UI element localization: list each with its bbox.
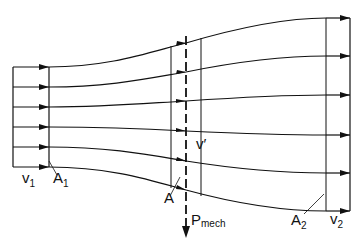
label-v-prime: v′ <box>196 135 207 152</box>
disc-arrows <box>176 41 186 190</box>
label-A1: A1 <box>53 169 69 189</box>
streamline-4 <box>49 127 326 135</box>
streamline-3 <box>49 95 326 107</box>
streamline-1 <box>49 18 326 67</box>
outlet-section <box>326 18 350 211</box>
streamtube-diagram: v1 A1 A v′ Pmech A2 v2 <box>0 0 363 247</box>
label-P-mech: Pmech <box>191 211 225 229</box>
streamlines <box>49 18 326 211</box>
label-A: A <box>164 189 174 206</box>
label-v1: v1 <box>22 169 36 189</box>
inlet-section <box>13 67 49 167</box>
label-A2: A2 <box>291 211 307 231</box>
power-extraction-arrow <box>182 226 190 238</box>
label-v2: v2 <box>330 210 344 230</box>
streamline-2 <box>49 56 326 87</box>
streamline-6 <box>49 167 326 211</box>
